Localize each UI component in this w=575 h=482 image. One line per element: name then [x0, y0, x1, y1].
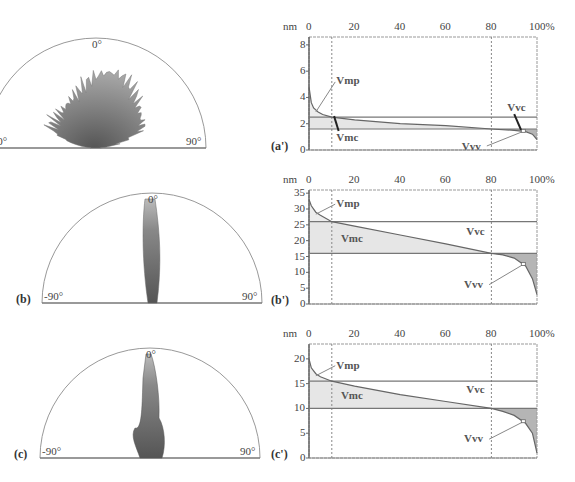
x-tick-label: 20 — [349, 21, 360, 32]
polar-blob-c — [133, 354, 164, 458]
annotation-vmp-c': Vmp — [336, 360, 359, 371]
angle-label-neg90-a: -90° — [0, 136, 7, 147]
y-tick-label: 15 — [294, 378, 305, 389]
angle-label-neg90-b: -90° — [44, 291, 63, 302]
y-tick-label: 4 — [300, 91, 306, 102]
annotation-vvc-a': Vvc — [507, 102, 525, 113]
x-tick-label: 60 — [440, 21, 451, 32]
polar-blob-b — [143, 199, 160, 303]
y-tick-label: 25 — [294, 219, 305, 230]
y-tick-label: 5 — [300, 282, 306, 293]
y-tick-label: 10 — [294, 402, 305, 413]
polar-blob-a — [44, 70, 145, 148]
y-tick-label: 0 — [300, 298, 306, 309]
x-tick-label: 80 — [485, 21, 496, 32]
angle-label-90-b: 90° — [242, 291, 257, 302]
y-tick-label: 20 — [294, 353, 305, 364]
annotation-vvv-a': Vvv — [462, 141, 481, 152]
y-tick-label: 15 — [294, 251, 305, 262]
x-tick-label: 100% — [529, 21, 555, 32]
y-unit-label: nm — [283, 21, 297, 32]
x-tick-label: 80 — [485, 328, 496, 339]
annotation-vvv-c': Vvv — [464, 433, 483, 444]
annotation-vmp-b': Vmp — [336, 198, 359, 209]
x-tick-label: 80 — [485, 174, 496, 185]
y-tick-label: 6 — [300, 65, 306, 76]
y-unit-label: nm — [283, 328, 297, 339]
y-tick-label: 2 — [300, 118, 306, 129]
panel-label-a': (a') — [271, 140, 288, 152]
annotation-vmc-c': Vmc — [341, 390, 363, 401]
angle-label-90-a: 90° — [186, 136, 201, 147]
vmp-leader-line-a' — [316, 82, 335, 112]
annotation-vvc-b': Vvc — [466, 226, 484, 237]
panel-label-b: (b) — [16, 293, 31, 305]
panel-label-c': (c') — [271, 448, 288, 460]
y-unit-label: nm — [283, 174, 297, 185]
x-tick-label: 40 — [394, 21, 405, 32]
y-tick-label: 8 — [300, 39, 306, 50]
x-tick-label: 40 — [394, 174, 405, 185]
y-tick-label: 0 — [300, 452, 306, 463]
x-tick-label: 0 — [306, 174, 312, 185]
y-tick-label: 20 — [294, 235, 305, 246]
figure-canvas — [0, 0, 575, 482]
annotation-vvv-b': Vvv — [464, 279, 483, 290]
vvv-marker-c' — [521, 420, 525, 423]
panel-label-c: (c) — [14, 448, 27, 460]
x-tick-label: 0 — [306, 328, 312, 339]
x-tick-label: 40 — [394, 328, 405, 339]
angle-label-0-a: 0° — [92, 39, 102, 50]
y-tick-label: 30 — [294, 203, 305, 214]
x-tick-label: 60 — [440, 174, 451, 185]
annotation-vmc-a': Vmc — [336, 132, 358, 143]
y-tick-label: 10 — [294, 266, 305, 277]
vmp-leader-line-b' — [316, 204, 335, 214]
y-tick-label: 35 — [294, 187, 305, 198]
y-tick-label: 5 — [300, 427, 306, 438]
y-tick-label: 0 — [300, 144, 306, 155]
vvc-arrow-a' — [514, 114, 521, 130]
vvv-leader-line-b' — [489, 264, 523, 284]
angle-label-0-c: 0° — [146, 349, 156, 360]
vvv-leader-line-a' — [487, 131, 523, 146]
vmp-leader-line-c' — [316, 366, 335, 376]
panel-label-b': (b') — [271, 294, 289, 306]
angle-label-90-c: 90° — [240, 446, 255, 457]
annotation-vmp-a': Vmp — [336, 75, 359, 86]
vmp-area-b' — [309, 200, 332, 222]
x-tick-label: 0 — [306, 21, 312, 32]
vvv-marker-b' — [521, 262, 525, 265]
x-tick-label: 60 — [440, 328, 451, 339]
vvv-marker-a' — [521, 129, 525, 132]
vvv-leader-line-c' — [489, 422, 523, 439]
x-tick-label: 20 — [349, 328, 360, 339]
angle-label-neg90-c: -90° — [42, 446, 61, 457]
x-tick-label: 20 — [349, 174, 360, 185]
annotation-vvc-c': Vvc — [466, 384, 484, 395]
x-tick-label: 100% — [529, 174, 555, 185]
angle-label-0-b: 0° — [148, 194, 158, 205]
annotation-vmc-b': Vmc — [341, 233, 363, 244]
vmc-area-b' — [309, 222, 491, 254]
x-tick-label: 100% — [529, 328, 555, 339]
